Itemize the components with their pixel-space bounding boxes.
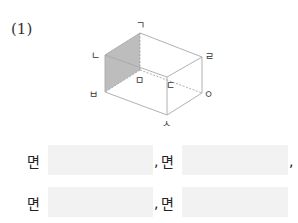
rectangular-prism-figure: ㄱ ㄴ ㄹ ㅁ ㄷ ㅂ ㅇ ㅅ <box>0 0 298 130</box>
vertex-label: ㄴ <box>91 50 100 61</box>
vertex-label: ㄷ <box>166 80 175 91</box>
answer-blank[interactable] <box>48 145 153 175</box>
vertex-label: ㅂ <box>89 89 98 100</box>
answer-blank[interactable] <box>48 187 153 217</box>
vertex-label: ㄹ <box>205 51 214 62</box>
face-label: 면 <box>27 193 40 213</box>
answer-blank[interactable] <box>182 187 288 217</box>
vertex-label: ㅅ <box>162 118 171 129</box>
answer-row-2: 면 , 면 <box>0 187 298 217</box>
vertex-label: ㄱ <box>136 20 145 31</box>
face-label: 면 <box>161 193 174 213</box>
separator: , <box>154 153 158 169</box>
separator: , <box>154 195 158 211</box>
vertex-label: ㅁ <box>135 75 144 86</box>
vertex-label: ㅇ <box>204 89 213 100</box>
answer-row-1: 면 , 면 , <box>0 145 298 175</box>
face-label: 면 <box>27 151 40 171</box>
face-label: 면 <box>161 151 174 171</box>
separator: , <box>289 153 293 169</box>
answer-blank[interactable] <box>182 145 288 175</box>
